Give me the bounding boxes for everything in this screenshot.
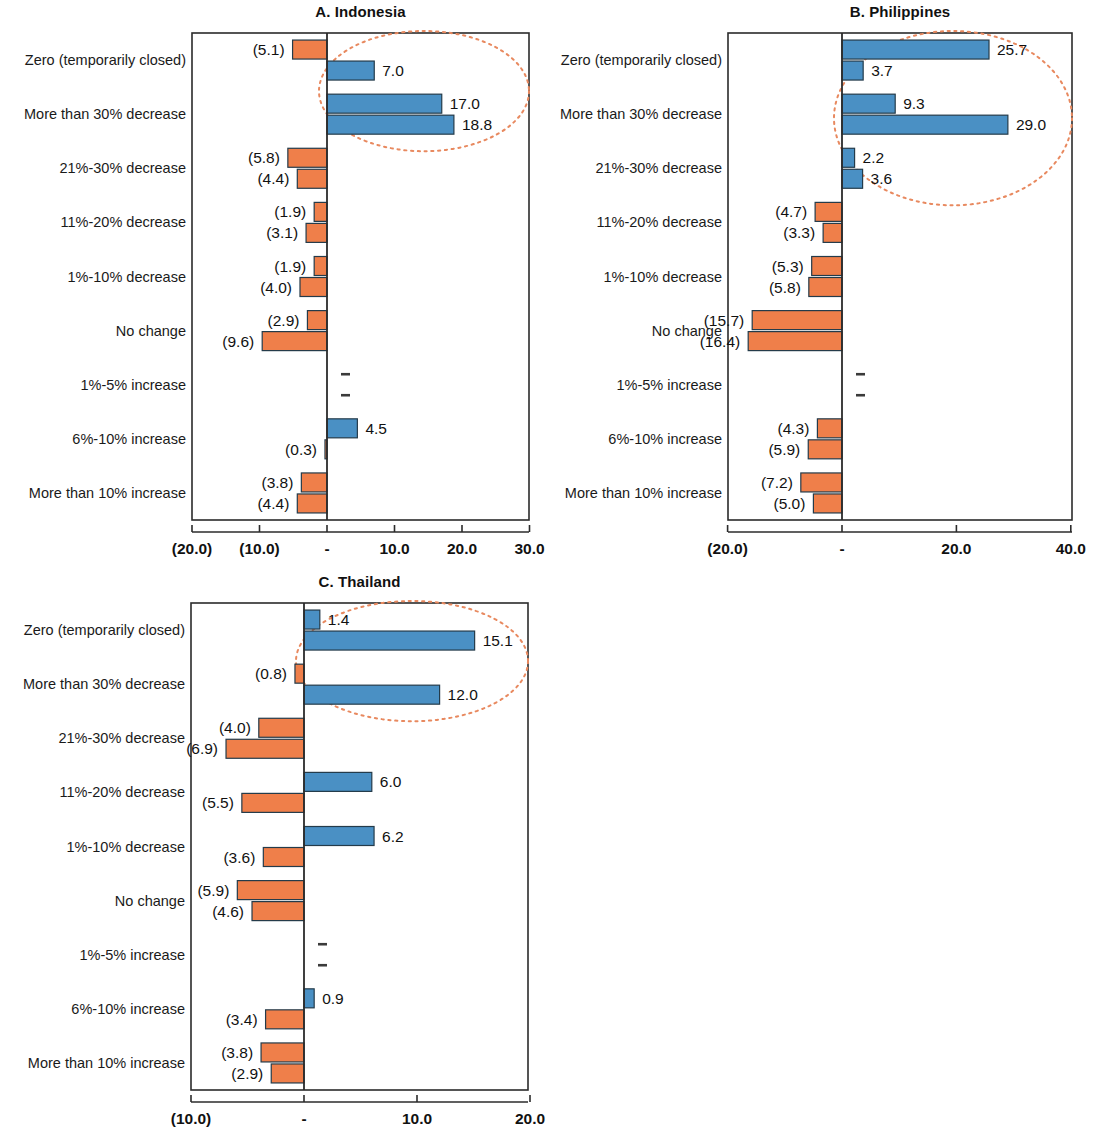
data-bar: [304, 772, 372, 791]
data-bar: [293, 40, 327, 59]
data-bar: [327, 61, 374, 80]
category-label: Zero (temporarily closed): [561, 52, 722, 68]
data-bar: [242, 793, 304, 812]
data-bar: [817, 419, 842, 438]
bar-value-label: (0.8): [255, 665, 287, 682]
data-bar: [304, 631, 475, 650]
data-bar: [752, 311, 842, 330]
bar-value-label: (5.9): [768, 441, 800, 458]
data-bar: [226, 739, 304, 758]
data-bar: [808, 440, 842, 459]
bar-value-label: 0.9: [322, 990, 344, 1007]
bar-value-label: (3.8): [221, 1044, 253, 1061]
data-bar: [262, 332, 327, 351]
bar-value-label: (4.4): [257, 170, 289, 187]
data-bar: [306, 223, 327, 242]
data-bar: [842, 61, 863, 80]
bar-value-label: (9.6): [222, 333, 254, 350]
category-label: Zero (temporarily closed): [25, 52, 186, 68]
bar-value-label: (5.3): [772, 258, 804, 275]
bar-value-label: (3.3): [783, 224, 815, 241]
chart-svg-thailand: Zero (temporarily closed)1.415.1More tha…: [0, 570, 560, 1135]
bar-value-label: (5.0): [774, 495, 806, 512]
data-bar: [304, 989, 314, 1008]
data-bar: [813, 494, 842, 513]
bar-value-label: 1.4: [328, 611, 350, 628]
bar-value-label: (5.9): [197, 882, 229, 899]
category-label: 21%-30% decrease: [595, 160, 722, 176]
data-bar: [304, 610, 320, 629]
category-label: 11%-20% decrease: [597, 214, 722, 230]
category-label: 1%-10% decrease: [67, 839, 186, 855]
data-bar: [823, 223, 842, 242]
bar-value-label: (3.4): [226, 1011, 258, 1028]
bar-value-label: 3.7: [871, 62, 893, 79]
bar-value-label: (5.8): [248, 149, 280, 166]
chart-panel-indonesia: A. Indonesia Zero (temporarily closed)(5…: [0, 0, 545, 570]
bar-value-label: (4.0): [219, 719, 251, 736]
data-bar: [842, 148, 855, 167]
chart-svg-indonesia: Zero (temporarily closed)(5.1)7.0More th…: [0, 0, 545, 560]
category-label: 6%-10% increase: [608, 431, 722, 447]
bar-value-label: (4.7): [775, 203, 807, 220]
data-bar: [297, 494, 327, 513]
bar-value-label: 4.5: [365, 420, 387, 437]
x-axis-tick-label: (10.0): [171, 1110, 212, 1127]
x-axis-tick-label: -: [301, 1110, 306, 1127]
x-axis-tick-label: 10.0: [379, 540, 409, 557]
data-bar: [314, 257, 327, 276]
category-label: More than 30% decrease: [23, 676, 185, 692]
bar-value-label: (16.4): [700, 333, 741, 350]
data-bar: [263, 848, 304, 867]
bar-value-label: (2.9): [231, 1065, 263, 1082]
bar-value-label: 6.2: [382, 828, 404, 845]
bar-value-label: 7.0: [382, 62, 404, 79]
bar-value-label: (5.1): [253, 41, 285, 58]
bar-value-label: 18.8: [462, 116, 492, 133]
bar-value-label: 9.3: [903, 95, 925, 112]
data-bar: [304, 685, 440, 704]
category-label: More than 10% increase: [29, 485, 186, 501]
bar-value-label: 3.6: [871, 170, 893, 187]
bar-value-label: (2.9): [268, 312, 300, 329]
category-label: 1%-5% increase: [80, 377, 186, 393]
data-bar: [300, 278, 327, 297]
category-label: Zero (temporarily closed): [24, 622, 185, 638]
category-label: 11%-20% decrease: [60, 784, 185, 800]
data-bar: [327, 115, 454, 134]
data-bar: [301, 473, 327, 492]
data-bar: [252, 902, 304, 921]
category-label: 6%-10% increase: [71, 1001, 185, 1017]
data-bar: [842, 115, 1008, 134]
category-label: No change: [116, 323, 186, 339]
data-bar: [307, 311, 327, 330]
data-bar: [266, 1010, 304, 1029]
data-bar: [842, 40, 989, 59]
data-bar: [288, 148, 327, 167]
x-axis-tick-label: 20.0: [515, 1110, 545, 1127]
category-label: More than 30% decrease: [24, 106, 186, 122]
category-label: 6%-10% increase: [72, 431, 186, 447]
category-label: 1%-10% decrease: [68, 269, 187, 285]
bar-value-label: (4.3): [778, 420, 810, 437]
bar-value-label: 2.2: [863, 149, 885, 166]
data-bar: [842, 169, 863, 188]
bar-value-label: (4.6): [212, 903, 244, 920]
category-label: More than 10% increase: [28, 1055, 185, 1071]
bar-value-label: 15.1: [483, 632, 513, 649]
x-axis-tick-label: (10.0): [239, 540, 280, 557]
x-axis-tick-label: 10.0: [402, 1110, 432, 1127]
bar-value-label: 25.7: [997, 41, 1027, 58]
bar-value-label: 17.0: [450, 95, 481, 112]
category-label: 1%-5% increase: [616, 377, 722, 393]
data-bar: [259, 718, 304, 737]
data-bar: [809, 278, 842, 297]
data-bar: [815, 202, 842, 221]
bar-value-label: (6.9): [186, 740, 218, 757]
bar-value-label: (4.4): [257, 495, 289, 512]
data-bar: [295, 664, 304, 683]
bar-value-label: 6.0: [380, 773, 402, 790]
bar-value-label: (15.7): [704, 312, 745, 329]
bar-value-label: (1.9): [274, 203, 306, 220]
category-label: 21%-30% decrease: [58, 730, 185, 746]
